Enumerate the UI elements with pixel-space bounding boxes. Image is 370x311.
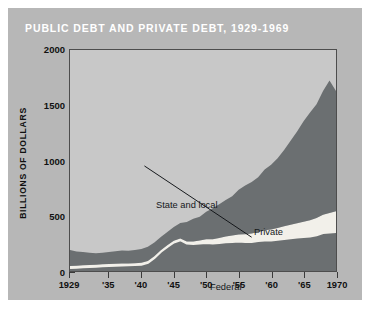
x-tick-label: '35 [102,280,115,290]
stacked-area-series [70,50,336,271]
x-tick-label: '50 [200,280,213,290]
x-tick-mark [206,272,207,278]
x-tick-label: '65 [298,280,311,290]
x-tick-label: 1929 [59,280,80,290]
y-tick-label: 2000 [44,44,65,55]
plot-area: State and local Private Federal [69,49,337,272]
y-tick-label: 1500 [44,99,65,110]
x-tick-mark [69,272,70,278]
x-tick-mark [272,272,273,278]
y-axis-title: BILLIONS OF DOLLARS [18,88,28,238]
annotation-private: Private [254,227,283,237]
annotation-state-and-local: State and local [156,200,218,210]
x-tick-label: '45 [167,280,180,290]
x-tick-label: '60 [265,280,278,290]
x-tick-mark [304,272,305,278]
y-tick-label: 500 [49,211,65,222]
chart-figure: PUBLIC DEBT AND PRIVATE DEBT, 1929-1969 … [8,8,362,300]
x-tick-mark [337,272,338,278]
x-tick-label: '40 [135,280,148,290]
x-tick-mark [108,272,109,278]
y-tick-label: 0 [60,267,65,278]
x-tick-mark [174,272,175,278]
x-tick-mark [141,272,142,278]
x-tick-label: 1970 [327,280,348,290]
x-tick-mark [239,272,240,278]
chart-title: PUBLIC DEBT AND PRIVATE DEBT, 1929-1969 [25,22,289,34]
y-axis-tick-labels: 0500100015002000 [8,49,65,272]
y-tick-label: 1000 [44,155,65,166]
x-tick-label: '55 [233,280,246,290]
